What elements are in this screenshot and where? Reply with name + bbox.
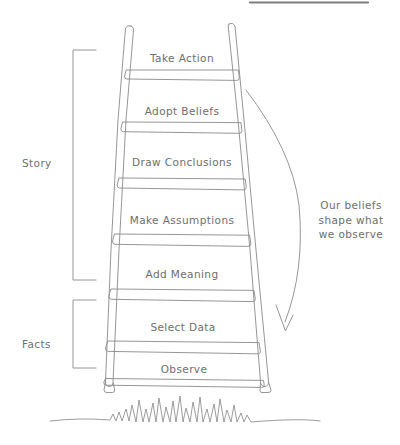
rung-label-take-action: Take Action [124,52,240,64]
rung-label-adopt-beliefs: Adopt Beliefs [121,105,243,117]
feedback-arrow-curve [246,90,300,322]
rung-label-observe: Observe [104,363,264,375]
annotation-line-3: we observe [319,228,383,240]
group-label-facts: Facts [22,338,51,350]
feedback-arrow-head [276,305,293,331]
ladder-rung-5 [109,289,256,302]
diagram-canvas: Take Action Adopt Beliefs Draw Conclusio… [0,0,400,445]
ladder-rung-6 [105,341,260,354]
rung-label-make-assumptions: Make Assumptions [113,214,251,226]
brace-facts [73,300,96,368]
ladder-rung-1 [124,70,239,80]
rung-label-add-meaning: Add Meaning [109,268,255,280]
annotation-line-1: Our beliefs [320,199,382,211]
annotation-line-2: shape what [319,214,384,226]
rung-label-draw-conclusions: Draw Conclusions [117,156,247,168]
ladder-rung-7 [104,379,264,388]
ladder-rung-3 [117,178,246,190]
rung-label-select-data: Select Data [106,321,260,333]
ladder-rung-2 [121,122,242,133]
group-label-story: Story [22,157,52,169]
brace-story [73,50,96,280]
grass-squiggle [50,396,320,422]
ladder-rung-4 [112,234,250,246]
annotation-beliefs-shape-observation: Our beliefs shape what we observe [305,198,397,242]
